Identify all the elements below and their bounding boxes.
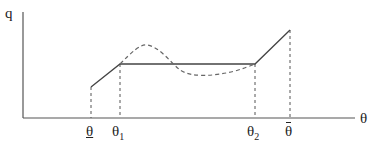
tick-theta-1-subscript: 1	[119, 131, 124, 142]
dashed-curve	[120, 45, 255, 75]
diagram-canvas	[0, 0, 385, 151]
x-axis-label: θ	[360, 111, 367, 126]
y-axis-label: q	[5, 6, 13, 21]
tick-theta-2-subscript: 2	[254, 131, 259, 142]
tick-theta-1: θ1	[112, 124, 124, 139]
tick-theta-2: θ2	[247, 124, 259, 139]
solid-curve	[91, 30, 290, 87]
tick-theta-high: θ	[285, 124, 292, 139]
tick-theta-low: θ	[86, 124, 93, 139]
tick-theta-high-symbol: θ	[285, 124, 292, 139]
